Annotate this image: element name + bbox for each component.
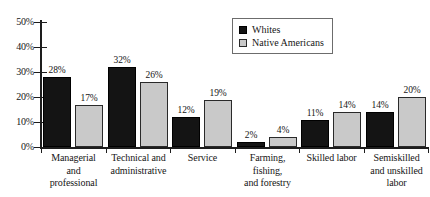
y-axis-line — [40, 20, 42, 149]
bar-value-label: 20% — [390, 85, 430, 95]
x-axis-category-label: Farming, fishing, and forestry — [231, 152, 304, 190]
bar-value-label: 32% — [100, 55, 144, 65]
y-axis-tick-label: 10% — [0, 117, 34, 127]
legend-item-whites: Whites — [239, 23, 324, 36]
legend-label: Native Americans — [252, 37, 324, 48]
bar-value-label: 14% — [358, 100, 402, 110]
bar — [43, 77, 71, 147]
y-axis-tick — [34, 22, 47, 23]
legend-item-native-americans: Native Americans — [239, 36, 324, 49]
y-axis-tick-label: 0% — [0, 142, 34, 152]
y-axis-tick-label: 40% — [0, 42, 34, 52]
bar-value-label: 26% — [132, 70, 176, 80]
legend-label: Whites — [252, 24, 280, 35]
gray-square-swatch-icon — [239, 39, 247, 47]
bar — [75, 105, 103, 148]
x-axis-category-label: Managerial and professional — [37, 152, 110, 190]
x-axis-category-label: Skilled labor — [295, 152, 368, 165]
grouped-bar-chart: 0%10%20%30%40%50% 28%17%32%26%12%19%2%4%… — [0, 0, 430, 197]
x-axis-line — [40, 147, 428, 149]
bar-value-label: 19% — [196, 88, 240, 98]
bar — [269, 137, 297, 147]
y-axis-tick-label: 20% — [0, 92, 34, 102]
bar-value-label: 12% — [164, 105, 208, 115]
y-axis-tick — [34, 47, 47, 48]
x-axis-category-label: Semiskilled and unskilled labor — [360, 152, 430, 190]
x-axis-category-label: Technical and administrative — [102, 152, 175, 177]
y-axis-tick-label: 30% — [0, 67, 34, 77]
bar — [204, 100, 232, 148]
bar — [398, 97, 426, 147]
bar — [172, 117, 200, 147]
bar — [237, 142, 265, 147]
x-axis-category-label: Service — [166, 152, 239, 165]
bar-value-label: 17% — [67, 93, 111, 103]
chart-legend: Whites Native Americans — [232, 18, 333, 54]
bar — [333, 112, 361, 147]
bar-value-label: 28% — [35, 65, 79, 75]
y-axis-tick-label: 50% — [0, 17, 34, 27]
bar-value-label: 4% — [261, 125, 305, 135]
bar — [366, 112, 394, 147]
bar — [301, 120, 329, 148]
black-square-swatch-icon — [239, 26, 247, 34]
